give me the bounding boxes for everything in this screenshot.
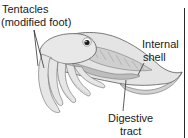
label-digestive-tract-line2: tract [120, 125, 141, 137]
right-border-line [184, 8, 185, 138]
label-internal-shell-line2: shell [143, 51, 166, 63]
label-digestive-tract: Digestive [108, 112, 153, 124]
label-tentacles-subtitle: (modified foot) [1, 16, 71, 28]
label-tentacles: Tentacles [2, 3, 48, 15]
label-internal-shell: Internal [142, 38, 179, 50]
